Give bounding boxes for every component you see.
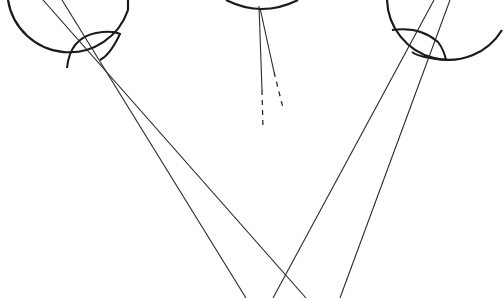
right-ray-b (340, 0, 450, 298)
center-eye (226, 0, 298, 130)
center-eyeball-outline (226, 0, 298, 9)
right-ray-a (273, 0, 434, 298)
left-ray-b (62, 0, 246, 298)
center-ray-b (260, 8, 274, 72)
center-ray-a (259, 6, 262, 90)
left-ray-a (43, 0, 306, 298)
optics-diagram (0, 0, 504, 298)
center-ray-b-dashed (274, 72, 283, 108)
right-eye (387, 0, 502, 60)
left-lens (67, 32, 120, 68)
left-eyeball-outline (8, 0, 128, 52)
center-ray-a-dashed (262, 90, 263, 130)
